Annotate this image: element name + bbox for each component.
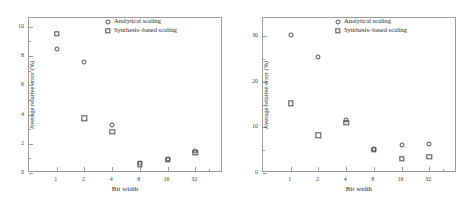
circle-marker-icon — [104, 18, 111, 25]
x-tick — [429, 167, 430, 171]
x-tick — [346, 167, 347, 171]
plot-area-right — [263, 18, 455, 171]
data-point-square — [288, 101, 293, 106]
data-point-circle — [54, 46, 59, 51]
data-point-square — [399, 156, 404, 161]
plot-frame-left — [28, 17, 222, 172]
x-tick — [318, 167, 319, 171]
x-tick — [57, 167, 58, 171]
y-axis-title-wrap-right: Average relative error (%) — [248, 17, 249, 172]
x-tick-label: 2 — [316, 176, 319, 182]
legend-label-synthesis: Synthesis–based scaling — [344, 25, 407, 35]
x-tick — [168, 167, 169, 171]
y-axis-title-left: Average relative error (%) — [29, 35, 36, 155]
plot-frame-right — [262, 17, 456, 172]
x-tick-label: 1 — [288, 176, 291, 182]
data-point-circle — [288, 32, 293, 37]
data-point-square — [193, 150, 198, 155]
y-tick-label: 10 — [6, 23, 24, 29]
data-point-circle — [427, 141, 432, 146]
x-tick-minor — [209, 169, 210, 171]
x-tick-label: 2 — [82, 176, 85, 182]
y-tick-label: 8 — [6, 52, 24, 58]
x-tick — [84, 167, 85, 171]
x-tick-label: 32 — [191, 176, 197, 182]
x-tick-label: 16 — [164, 176, 170, 182]
circle-marker-icon — [334, 18, 341, 25]
data-point-square — [82, 115, 87, 120]
x-axis-title-left: Bit width — [28, 186, 222, 193]
y-tick — [29, 173, 33, 174]
x-tick-label: 32 — [425, 176, 431, 182]
y-tick-label: 4 — [6, 111, 24, 117]
plot-area-left — [29, 18, 221, 171]
legend-item-synthesis: Synthesis–based scaling — [334, 26, 407, 35]
data-point-circle — [82, 59, 87, 64]
y-tick — [263, 173, 267, 174]
legend-label-synthesis: Synthesis–based scaling — [114, 25, 177, 35]
x-tick-label: 8 — [137, 176, 140, 182]
x-tick-label: 4 — [110, 176, 113, 182]
y-tick-minor — [29, 158, 31, 159]
data-point-square — [137, 162, 142, 167]
y-tick-label: 0 — [6, 169, 24, 175]
y-tick-label: 6 — [6, 81, 24, 87]
y-tick-label: 0 — [240, 169, 258, 175]
y-axis-title-wrap-left: Average relative error (%) — [14, 17, 15, 172]
x-tick — [291, 167, 292, 171]
data-point-square — [343, 120, 348, 125]
x-tick — [195, 167, 196, 171]
data-point-circle — [399, 142, 404, 147]
data-point-circle — [110, 123, 115, 128]
figure-two-scatter-panels: Average relative error (%) Bit width Ana… — [0, 0, 468, 206]
x-tick-label: 4 — [344, 176, 347, 182]
y-tick-label: 2 — [6, 140, 24, 146]
y-axis-title-right: Average relative error (%) — [263, 35, 270, 155]
data-point-square — [109, 129, 114, 134]
y-tick-label: 10 — [240, 123, 258, 129]
data-point-circle — [316, 54, 321, 59]
data-point-square — [165, 157, 170, 162]
x-tick — [140, 167, 141, 171]
x-axis-title-right: Bit width — [262, 186, 456, 193]
legend-item-synthesis: Synthesis–based scaling — [104, 26, 177, 35]
x-tick-label: 16 — [398, 176, 404, 182]
square-marker-icon — [104, 27, 111, 34]
chart-panel-left: Average relative error (%) Bit width Ana… — [0, 0, 234, 206]
x-tick — [374, 167, 375, 171]
y-tick-label: 20 — [240, 78, 258, 84]
data-point-square — [54, 31, 59, 36]
y-tick — [29, 27, 33, 28]
data-point-square — [427, 154, 432, 159]
x-tick — [402, 167, 403, 171]
y-tick-label: 30 — [240, 32, 258, 38]
legend-right: Analytical scaling Synthesis–based scali… — [334, 17, 407, 35]
x-tick-label: 1 — [54, 176, 57, 182]
x-tick-minor — [443, 169, 444, 171]
legend-left: Analytical scaling Synthesis–based scali… — [104, 17, 177, 35]
chart-panel-right: Average relative error (%) Bit width Ana… — [234, 0, 468, 206]
data-point-square — [371, 147, 376, 152]
data-point-square — [316, 132, 321, 137]
x-tick — [112, 167, 113, 171]
x-tick-label: 8 — [371, 176, 374, 182]
square-marker-icon — [334, 27, 341, 34]
